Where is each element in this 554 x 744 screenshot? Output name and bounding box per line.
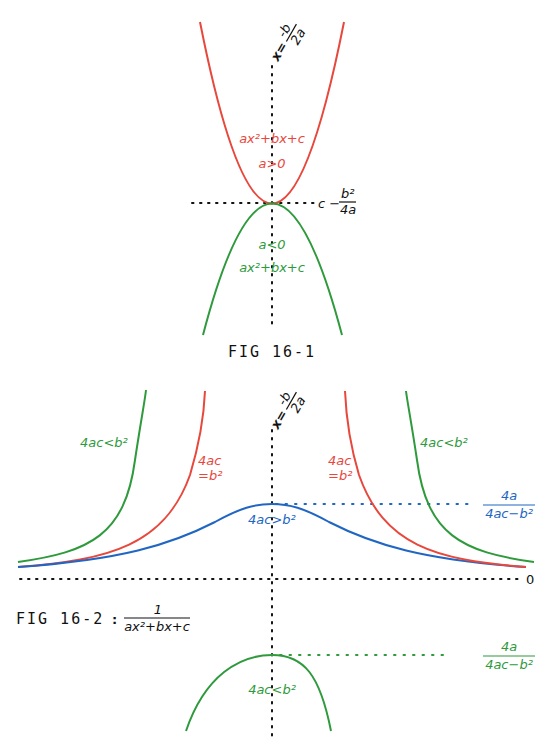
downward-cond: a<0 bbox=[258, 237, 285, 252]
svg-text:x=: x= bbox=[267, 407, 290, 432]
upward-expr: ax²+bx+c bbox=[239, 131, 305, 146]
left-red-label-1: 4ac bbox=[198, 453, 221, 468]
svg-text:x=: x= bbox=[267, 39, 290, 64]
blue-label: 4ac>b² bbox=[248, 512, 296, 527]
upward-cond: a>0 bbox=[258, 156, 285, 171]
lower-cap-label: 4ac<b² bbox=[248, 682, 296, 697]
fig-16-2-caption: FIG 16-2 bbox=[16, 610, 104, 628]
red-left-branch bbox=[18, 391, 205, 567]
lower-peak-label: 4a 4ac−b² bbox=[483, 639, 535, 672]
function-label: 1 ax²+bx+c bbox=[124, 602, 190, 634]
svg-text:c −: c − bbox=[318, 196, 340, 211]
left-green-label: 4ac<b² bbox=[80, 435, 128, 450]
svg-text:4a: 4a bbox=[340, 202, 356, 217]
fig-16-1: x= -b 2a ax²+bx+c a>0 a<0 ax²+bx+c c − b… bbox=[192, 17, 356, 361]
svg-text:b²: b² bbox=[341, 186, 354, 201]
svg-text:1: 1 bbox=[154, 602, 162, 617]
svg-text:4a: 4a bbox=[501, 639, 517, 654]
axis-label-fig1: x= -b 2a bbox=[262, 17, 309, 69]
svg-text:4ac−b²: 4ac−b² bbox=[485, 506, 533, 521]
vertex-label: c − b² 4a bbox=[318, 186, 356, 217]
axis-label-fig2: x= -b 2a bbox=[262, 385, 309, 437]
right-red-label-1: 4ac bbox=[328, 453, 351, 468]
right-green-label: 4ac<b² bbox=[420, 435, 468, 450]
left-red-label-2: =b² bbox=[198, 468, 222, 483]
green-right-branch bbox=[406, 391, 534, 562]
green-left-branch bbox=[18, 390, 146, 562]
svg-text:ax²+bx+c: ax²+bx+c bbox=[124, 619, 190, 634]
zero-label: 0 bbox=[526, 572, 534, 587]
downward-expr: ax²+bx+c bbox=[239, 260, 305, 275]
blue-peak-label: 4a 4ac−b² bbox=[483, 488, 535, 521]
fig-16-1-caption: FIG 16-1 bbox=[228, 343, 316, 361]
figure-canvas: x= -b 2a ax²+bx+c a>0 a<0 ax²+bx+c c − b… bbox=[0, 0, 554, 744]
svg-text:4ac−b²: 4ac−b² bbox=[485, 657, 533, 672]
caption-separator: : bbox=[112, 612, 117, 627]
fig-16-2: 0 x= -b 2a 4ac<b² 4ac<b² 4ac =b² 4ac =b²… bbox=[16, 385, 535, 740]
svg-text:4a: 4a bbox=[501, 488, 517, 503]
right-red-label-2: =b² bbox=[328, 468, 352, 483]
